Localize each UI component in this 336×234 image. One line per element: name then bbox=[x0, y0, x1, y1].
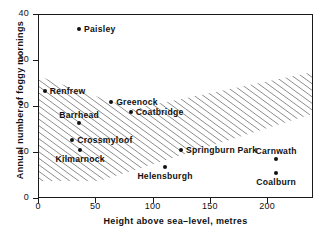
y-axis-tick-label: 40 bbox=[7, 8, 29, 18]
y-axis-tick-label: 20 bbox=[7, 100, 29, 110]
x-axis-tick-label: 150 bbox=[196, 201, 224, 211]
y-axis-tick-label: 10 bbox=[7, 146, 29, 156]
scatter-chart-figure: Annual number of foggy mornings Height a… bbox=[0, 0, 336, 234]
data-point-label: Crossmyloof bbox=[77, 135, 132, 145]
x-axis-title: Height above sea–level, metres bbox=[38, 216, 313, 226]
plot-area: PaisleyRenfrewGreenockCoatbridgeBarrhead… bbox=[38, 14, 313, 198]
data-point-label: Carnwath bbox=[256, 146, 297, 156]
data-point bbox=[43, 89, 47, 93]
x-axis-tick-label: 0 bbox=[24, 201, 52, 211]
data-point-label: Springburn Park bbox=[186, 145, 257, 155]
data-point bbox=[129, 110, 133, 114]
data-point-label: Kilmarnock bbox=[56, 154, 105, 164]
data-point-label: Paisley bbox=[84, 24, 115, 34]
data-point-label: Coalburn bbox=[256, 177, 296, 187]
data-point-label: Coatbridge bbox=[136, 107, 184, 117]
data-point bbox=[77, 27, 81, 31]
x-axis-tick-label: 50 bbox=[81, 201, 109, 211]
y-axis-tick-label: 30 bbox=[7, 54, 29, 64]
x-axis-tick-label: 100 bbox=[139, 201, 167, 211]
data-point-label: Barrhead bbox=[59, 110, 99, 120]
data-point bbox=[163, 165, 167, 169]
x-axis-tick-label: 200 bbox=[253, 201, 281, 211]
data-point-label: Helensburgh bbox=[137, 171, 192, 181]
data-point-label: Renfrew bbox=[50, 86, 86, 96]
